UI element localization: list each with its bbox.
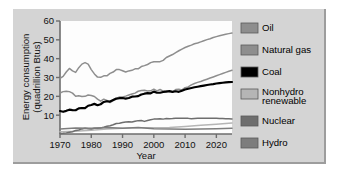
legend-swatch-hydro[interactable]: [241, 138, 258, 148]
legend-label-natural-gas: Natural gas: [262, 44, 311, 55]
legend-label-renewable-line2: renewable: [262, 95, 306, 106]
y-axis-ticks: 102030405060: [43, 15, 60, 120]
x-axis-ticks: 197019801990200020102020: [49, 134, 227, 150]
y-tick-label: 30: [43, 72, 54, 83]
x-tick-label: 1990: [112, 139, 133, 150]
chart-figure-panel: 102030405060 197019801990200020102020 En…: [13, 9, 326, 164]
legend-swatch-nonhydro[interactable]: [241, 89, 258, 99]
legend-label-nuclear: Nuclear: [262, 115, 296, 126]
legend-label-hydro: Hydro: [262, 137, 288, 148]
plot-background: [60, 21, 232, 134]
legend-swatch-natural-gas[interactable]: [241, 45, 258, 55]
x-tick-label: 1970: [49, 139, 70, 150]
y-tick-label: 20: [43, 91, 54, 102]
x-tick-label: 2020: [206, 139, 227, 150]
y-tick-label: 50: [43, 34, 54, 45]
x-tick-label: 2000: [143, 139, 164, 150]
legend-swatch-coal[interactable]: [241, 67, 258, 77]
y-axis-title-line1: Energy consumption: [20, 34, 31, 121]
x-tick-label: 1980: [81, 139, 102, 150]
x-axis-title: Year: [136, 150, 155, 161]
legend-swatch-nuclear[interactable]: [241, 116, 258, 126]
y-axis-title-line2: (quadrillion Btus): [31, 41, 42, 112]
y-tick-label: 10: [43, 110, 54, 121]
energy-consumption-line-chart: 102030405060 197019801990200020102020 En…: [13, 9, 326, 164]
legend-swatch-oil[interactable]: [241, 23, 258, 33]
legend-label-coal: Coal: [262, 66, 282, 77]
chart-legend: OilNatural gasCoalNonhydrorenewableNucle…: [241, 22, 311, 148]
legend-label-oil: Oil: [262, 22, 274, 33]
x-tick-label: 2010: [175, 139, 196, 150]
y-tick-label: 60: [43, 15, 54, 26]
y-axis-title: Energy consumption (quadrillion Btus): [20, 34, 42, 121]
y-tick-label: 40: [43, 53, 54, 64]
